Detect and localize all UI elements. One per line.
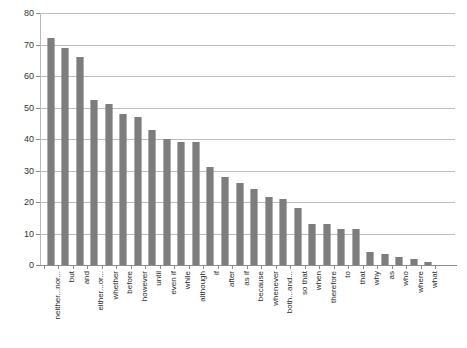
bar [309,224,316,265]
bar-series [40,13,455,265]
bar-slot [305,13,320,265]
x-tick-label: and [83,271,91,284]
bar-slot [290,13,305,265]
bar-slot [116,13,131,265]
x-tick-label: but [68,271,76,282]
x-tick-label: both...and... [286,271,294,313]
bar [381,254,388,265]
x-tick-label: therefore [330,271,338,303]
bar-slot [44,13,59,265]
bar [251,189,258,265]
bar [163,139,170,265]
bar [120,114,127,265]
bar [323,224,330,265]
x-tick-label: neither...nor... [54,271,62,319]
y-tick-label-0: 0 [6,261,34,270]
bar-slot [363,13,378,265]
bar [280,199,287,265]
x-tick-label: whether [112,271,120,299]
x-tick-label: when [315,271,323,290]
bar [47,38,54,265]
y-tick-label-20: 20 [6,198,34,207]
x-tick-label: after [228,271,236,287]
bar-slot [406,13,421,265]
bar-slot [189,13,204,265]
bar-slot [218,13,233,265]
bar [367,252,374,265]
bar [76,57,83,265]
x-tick-label: however [141,271,149,301]
y-tick-label-40: 40 [6,135,34,144]
y-tick-label-10: 10 [6,230,34,239]
bar [178,142,185,265]
x-tick-label: as [388,271,396,279]
bar [62,48,69,265]
bar-slot [232,13,247,265]
bar-slot [73,13,88,265]
y-tick-label-70: 70 [6,41,34,50]
x-tick-label: where [417,271,425,293]
x-tick-label: whenever [272,271,280,306]
x-tick-label: to [344,271,352,278]
bar-slot [131,13,146,265]
bar-slot [145,13,160,265]
bar-slot [160,13,175,265]
bar [149,130,156,265]
x-tick-label: before [126,271,134,294]
x-tick-label: why [373,271,381,285]
bar [236,183,243,265]
x-tick-label: as if [243,271,251,286]
x-tick-label: until [155,271,163,286]
bar-slot [261,13,276,265]
bar-slot [319,13,334,265]
x-tick-label: because [257,271,265,301]
bar [207,167,214,265]
bar-slot [276,13,291,265]
bar-slot [421,13,436,265]
bar-slot [392,13,407,265]
bar [352,229,359,265]
x-tick-label: while [184,271,192,289]
y-tick-label-30: 30 [6,167,34,176]
x-axis-line [40,265,457,266]
x-tick-label: even if [170,271,178,295]
bar-slot [174,13,189,265]
bar [265,197,272,265]
bar [192,142,199,265]
bar-slot [334,13,349,265]
bar-slot [203,13,218,265]
bar-chart: 01020304050607080 neither...nor...butand… [0,0,467,348]
x-tick-label: that [359,271,367,284]
bar-slot [247,13,262,265]
bar [134,117,141,265]
y-tick-label-60: 60 [6,72,34,81]
x-tick-label: who [402,271,410,286]
bar-slot [102,13,117,265]
y-tick-label-50: 50 [6,104,34,113]
bar [91,100,98,265]
bar [338,229,345,265]
x-tick-label: what [431,271,439,288]
bar [294,208,301,265]
bar-slot [58,13,73,265]
bar [396,257,403,265]
bar-slot [348,13,363,265]
bar [105,104,112,265]
bar [222,177,229,265]
x-tick-label: if [213,271,221,275]
x-tick-label: although [199,271,207,302]
y-tick-label-80: 80 [6,9,34,18]
bar-slot [87,13,102,265]
bar-slot [377,13,392,265]
x-tick-label: so that [301,271,309,295]
x-tick-label: either...or... [97,271,105,311]
